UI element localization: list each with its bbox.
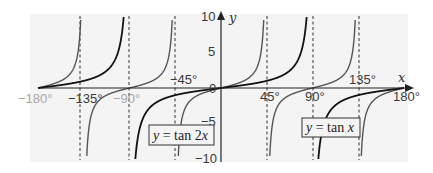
x-tick-p45: 45° <box>260 89 280 104</box>
svg-text:y = tan 2x: y = tan 2x <box>151 128 209 143</box>
y-tick-n10: −10 <box>195 151 217 166</box>
svg-text:y = tan x: y = tan x <box>304 120 355 135</box>
y-axis-label: y <box>228 10 237 25</box>
y-tick-5: 5 <box>208 44 215 59</box>
y-tick-10: 10 <box>201 9 215 24</box>
x-tick-p90: 90° <box>305 89 325 104</box>
x-tick-p135: 135° <box>349 72 376 87</box>
label-tan2x: y = tan 2x <box>149 125 214 145</box>
label-tanx: y = tan x <box>302 118 360 137</box>
y-tick-0: 0 <box>209 81 216 96</box>
x-tick-n90: −90° <box>113 91 140 106</box>
tangent-graph: x y −180° −135° −90° −45° 45° 90° 135° 1… <box>0 0 433 173</box>
x-tick-n135: −135° <box>68 91 102 106</box>
x-tick-n45: −45° <box>170 72 197 87</box>
x-axis-label: x <box>398 70 406 85</box>
x-tick-p180: 180° <box>393 89 420 104</box>
x-tick-n180: −180° <box>18 91 52 106</box>
